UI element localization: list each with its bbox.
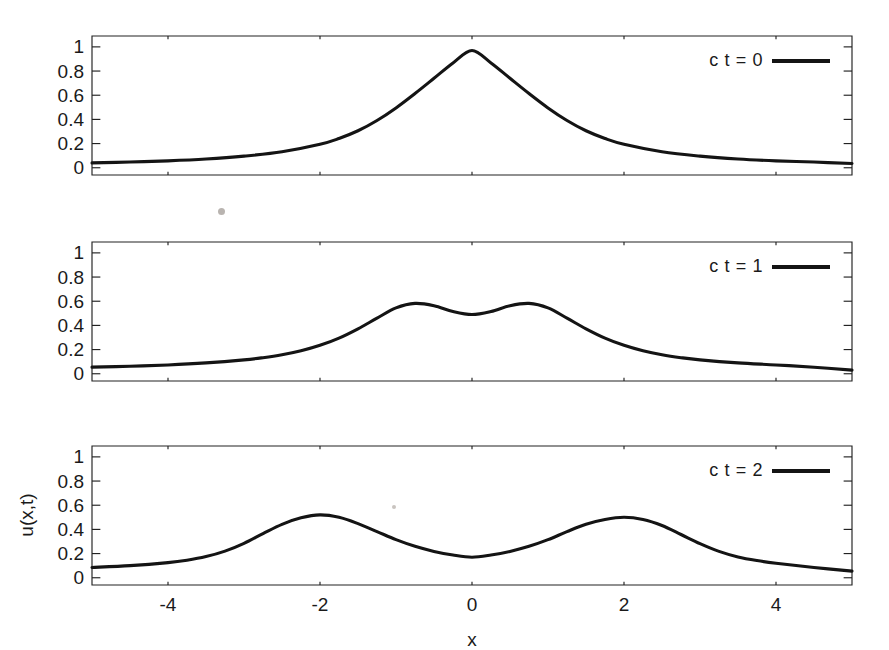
y-tick-label: 0.6 bbox=[58, 292, 84, 311]
y-tick-label: 1 bbox=[73, 243, 84, 262]
legend-panel-3: c t = 2 bbox=[709, 460, 830, 481]
y-tick-label: 0.6 bbox=[58, 86, 84, 105]
data-curve bbox=[92, 303, 852, 370]
y-tick-label: 0 bbox=[73, 568, 84, 587]
legend-panel-2: c t = 1 bbox=[709, 256, 830, 277]
x-axis-label: x bbox=[467, 629, 477, 650]
scan-artifact-speck bbox=[218, 208, 225, 215]
y-tick-label: 0.8 bbox=[58, 472, 84, 491]
y-tick-label: 0.2 bbox=[58, 340, 84, 359]
y-tick-label: 0 bbox=[73, 158, 84, 177]
scan-artifact-speck bbox=[392, 505, 396, 509]
data-curve bbox=[92, 515, 852, 571]
y-axis-label: u(x,t) bbox=[16, 493, 38, 536]
y-tick-label: 0.4 bbox=[58, 520, 84, 539]
legend-line-sample-panel-1 bbox=[772, 59, 830, 63]
x-tick-label: 4 bbox=[771, 595, 782, 614]
y-tick-label: 0.8 bbox=[58, 268, 84, 287]
y-tick-label: 0 bbox=[73, 364, 84, 383]
legend-line-sample-panel-3 bbox=[772, 469, 830, 473]
x-tick-label: 2 bbox=[619, 595, 630, 614]
y-tick-label: 0.4 bbox=[58, 316, 84, 335]
legend-label-ct-0: c t = 0 bbox=[709, 50, 763, 71]
x-tick-label: -4 bbox=[160, 595, 177, 614]
y-tick-label: 0.4 bbox=[58, 110, 84, 129]
y-tick-label: 0.2 bbox=[58, 544, 84, 563]
legend-label-ct-1: c t = 1 bbox=[709, 256, 763, 277]
legend-line-sample-panel-2 bbox=[772, 265, 830, 269]
y-tick-label: 0.6 bbox=[58, 496, 84, 515]
legend-label-ct-2: c t = 2 bbox=[709, 460, 763, 481]
legend-panel-1: c t = 0 bbox=[709, 50, 830, 71]
y-tick-label: 0.8 bbox=[58, 62, 84, 81]
x-tick-label: -2 bbox=[312, 595, 329, 614]
y-tick-label: 1 bbox=[73, 447, 84, 466]
y-tick-label: 1 bbox=[73, 37, 84, 56]
x-tick-label: 0 bbox=[467, 595, 478, 614]
y-tick-label: 0.2 bbox=[58, 134, 84, 153]
